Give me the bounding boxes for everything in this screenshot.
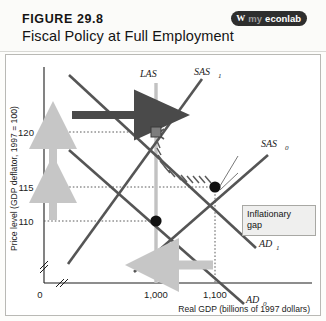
callout-line-1: Inflationary <box>247 209 311 220</box>
myeconlab-w-icon: W <box>236 14 245 23</box>
curve-label-sas0-sub: 0 <box>285 144 289 152</box>
x-origin-label: 0 <box>37 289 42 300</box>
equilibrium-point-above-full-employment <box>209 181 220 192</box>
callout-line-2: gap <box>247 220 311 231</box>
annotation-chevron-sas-adjustment <box>157 129 211 183</box>
chart-svg: Price level (GDP deflator, 1997 = 100) <box>6 55 320 315</box>
curve-label-sas0-base: SAS <box>261 138 277 149</box>
myeconlab-econlab-text: econlab <box>265 14 301 24</box>
myeconlab-logo[interactable]: W my econlab <box>231 11 307 26</box>
figure-header: FIGURE 29.8 Fiscal Policy at Full Employ… <box>0 0 326 52</box>
chart-plot-area: Price level (GDP deflator, 1997 = 100) <box>5 54 321 316</box>
curve-label-ad1-base: AD <box>258 238 273 249</box>
y-tick-label-120: 120 <box>18 127 34 138</box>
curve-label-sas1-sub: 1 <box>218 72 222 80</box>
x-axis-title: Real GDP (billions of 1997 dollars) <box>178 304 310 314</box>
curve-label-las: LAS <box>139 68 157 79</box>
myeconlab-my-text: my <box>248 14 262 24</box>
figure-title: Fiscal Policy at Full Employment <box>22 28 234 44</box>
y-tick-label-115: 115 <box>18 182 33 193</box>
x-tick-label-1100: 1,100 <box>203 289 227 300</box>
curve-label-sas0: SAS 0 <box>261 138 289 152</box>
curve-sas1 <box>68 79 202 264</box>
x-tick-label-1000: 1,000 <box>144 289 168 300</box>
figure-container: FIGURE 29.8 Fiscal Policy at Full Employ… <box>0 0 326 321</box>
curve-label-ad1-sub: 1 <box>276 244 280 252</box>
equilibrium-point-initial <box>150 215 161 226</box>
equilibrium-point-las <box>151 127 161 137</box>
header-divider <box>0 51 326 52</box>
curve-label-sas1: SAS 1 <box>194 66 222 80</box>
inflationary-gap-callout: Inflationary gap <box>242 205 316 236</box>
figure-number: FIGURE 29.8 <box>22 12 104 26</box>
curve-label-sas1-base: SAS <box>194 66 210 77</box>
curve-label-ad1: AD 1 <box>258 238 280 252</box>
y-tick-label-110: 110 <box>18 216 33 227</box>
